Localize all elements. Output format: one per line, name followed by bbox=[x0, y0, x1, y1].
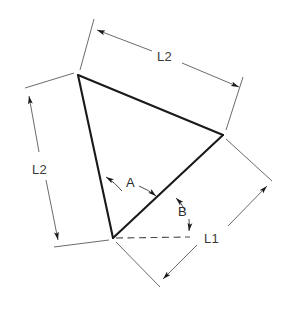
left-dimension-line-upper bbox=[29, 96, 39, 152]
angle-a-arc-right bbox=[139, 186, 156, 196]
left-top-extension-line bbox=[25, 73, 74, 88]
angle-a-arc-left bbox=[106, 177, 122, 191]
horizontal-reference-dashed-line bbox=[116, 237, 190, 238]
right-dimension-line-lower bbox=[163, 245, 197, 279]
angle-b-label: B bbox=[178, 204, 187, 219]
right-dimension-label: L1 bbox=[204, 231, 219, 246]
right-top-extension-line bbox=[226, 139, 272, 181]
left-dimension-line-lower bbox=[46, 180, 58, 240]
right-bottom-extension-line bbox=[116, 242, 160, 287]
left-dimension-label: L2 bbox=[32, 162, 47, 177]
triangle-shape bbox=[78, 75, 223, 238]
top-dimension-line-left bbox=[97, 30, 152, 51]
triangle-edge-left bbox=[78, 75, 113, 238]
top-dimension-group bbox=[80, 19, 243, 130]
top-dimension-line-right bbox=[182, 63, 239, 87]
left-bottom-extension-line bbox=[54, 240, 109, 247]
top-dimension-label: L2 bbox=[157, 49, 172, 64]
top-left-extension-line bbox=[80, 19, 94, 70]
right-dimension-line-upper bbox=[228, 186, 267, 226]
diagram-canvas: L2 L2 L1 A B bbox=[0, 0, 283, 310]
triangle-edge-top bbox=[78, 75, 223, 135]
angle-a-label: A bbox=[126, 175, 135, 190]
geometry-diagram: L2 L2 L1 A B bbox=[0, 0, 283, 310]
